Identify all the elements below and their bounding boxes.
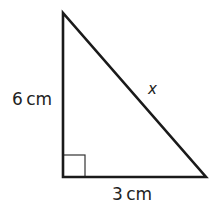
vertical-side-label: 6 cm: [12, 91, 52, 108]
triangle-outline: [63, 13, 206, 177]
right-angle-marker: [63, 155, 85, 177]
hypotenuse-label: x: [148, 82, 157, 97]
horizontal-side-label: 3 cm: [112, 186, 152, 203]
